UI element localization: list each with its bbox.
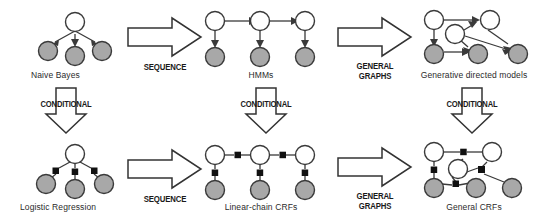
down-arrow-icon <box>244 86 288 136</box>
transition-conditional-left: CONDITIONAL <box>44 86 88 138</box>
transition-sequence-bottom: SEQUENCE <box>124 146 206 212</box>
caption-hmms: HMMs <box>196 70 326 80</box>
hmms-graph <box>196 4 326 66</box>
node-shaded-2 <box>251 181 270 200</box>
node-open-2 <box>251 146 270 165</box>
node-open-2 <box>251 12 270 31</box>
arrowheads <box>52 39 98 47</box>
right-arrow-icon <box>334 14 416 60</box>
node-shaded-3 <box>509 45 528 64</box>
right-arrow-icon <box>124 14 206 60</box>
node-shaded-2 <box>469 45 488 64</box>
node-open-1 <box>425 11 444 30</box>
factor-lower <box>453 181 460 188</box>
generative-directed-graph <box>408 4 540 66</box>
node-shaded-3 <box>93 42 112 61</box>
label-conditional-left: CONDITIONAL <box>18 99 114 110</box>
factor-emit-2 <box>257 170 264 177</box>
edge-b-to-f <box>488 30 508 44</box>
node-shaded-1 <box>425 45 444 64</box>
node-shaded-3 <box>503 179 522 198</box>
node-open-3 <box>449 160 468 179</box>
node-shaded-1 <box>206 181 225 200</box>
model-hmms: HMMs <box>196 4 326 82</box>
factor-emit-3 <box>302 170 309 177</box>
factor-chain-2 <box>280 152 287 159</box>
general-crfs-graph <box>408 140 540 198</box>
label-general-graphs-bottom-line2: GRAPHS <box>341 201 408 212</box>
right-arrow-icon <box>124 146 206 192</box>
node-open-3 <box>446 25 465 44</box>
node-shaded-2 <box>467 179 486 198</box>
edge-root-factor1 <box>59 162 70 168</box>
factor-emit-1 <box>212 170 219 177</box>
node-shaded-3 <box>296 48 315 67</box>
caption-generative-directed: Generative directed models <box>408 70 540 80</box>
node-shaded-2 <box>66 47 85 66</box>
linear-chain-crfs-graph <box>196 140 326 198</box>
edge-fright-f <box>484 174 504 182</box>
node-open-2 <box>483 143 502 162</box>
factor-top <box>460 149 467 156</box>
label-conditional-right: CONDITIONAL <box>424 99 520 110</box>
label-sequence-bottom: SEQUENCE <box>131 194 198 205</box>
node-open-1 <box>206 12 225 31</box>
node-shaded-1 <box>206 48 225 67</box>
node-open-2 <box>481 11 500 30</box>
factor-right <box>478 166 485 173</box>
factor-2 <box>72 169 79 176</box>
node-open-3 <box>296 12 315 31</box>
model-generative-directed: Generative directed models <box>408 4 540 82</box>
node-shaded-2 <box>66 180 85 199</box>
transition-conditional-middle: CONDITIONAL <box>244 86 288 138</box>
edge-root-factor3 <box>80 162 91 168</box>
factor-1 <box>53 168 60 175</box>
caption-general-crfs: General CRFs <box>408 202 540 212</box>
node-open-1 <box>425 143 444 162</box>
factor-3 <box>91 168 98 175</box>
node-shaded-1 <box>425 179 444 198</box>
node-shaded-2 <box>251 48 270 67</box>
transition-general-graphs-top: GENERAL GRAPHS <box>334 14 416 84</box>
node-shaded-1 <box>39 42 58 61</box>
down-arrow-icon <box>44 86 88 136</box>
factor-left <box>431 167 438 174</box>
model-general-crfs: General CRFs <box>408 140 540 216</box>
node-shaded-3 <box>95 175 114 194</box>
node-open-1 <box>206 146 225 165</box>
node-shaded-3 <box>296 181 315 200</box>
node-open-root <box>66 13 85 32</box>
transition-conditional-right: CONDITIONAL <box>450 86 494 138</box>
node-shaded-1 <box>37 175 56 194</box>
label-sequence-top: SEQUENCE <box>131 62 198 73</box>
label-general-graphs-top-line2: GRAPHS <box>341 71 408 82</box>
model-linear-chain-crfs: Linear-chain CRFs <box>196 140 326 216</box>
transition-general-graphs-bottom: GENERAL GRAPHS <box>334 144 416 214</box>
label-conditional-middle: CONDITIONAL <box>218 99 314 110</box>
transition-sequence-top: SEQUENCE <box>124 14 206 80</box>
right-arrow-icon <box>334 144 416 190</box>
crf-relationship-diagram: Naive Bayes SEQUENCE <box>0 0 547 220</box>
node-open-root <box>66 145 85 164</box>
down-arrow-icon <box>450 86 494 136</box>
caption-linear-chain-crfs: Linear-chain CRFs <box>196 202 326 212</box>
factor-chain-1 <box>235 152 242 159</box>
node-open-3 <box>296 146 315 165</box>
